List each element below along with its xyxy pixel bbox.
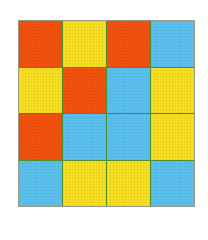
grid-cell-r3c2 [63,114,106,160]
grid-cell-r2c4 [151,68,194,114]
grid-cell-r2c1 [19,68,62,114]
grid-cell-r3c3 [107,114,150,160]
grid-cell-r4c1 [19,161,62,207]
grid-cell-r4c4 [151,161,194,207]
colored-square-grid [19,21,194,206]
grid-cell-r1c2 [63,21,106,67]
grid-cell-r3c4 [151,114,194,160]
grid-cell-r2c2 [63,68,106,114]
grid-cell-r3c1 [19,114,62,160]
grid-cell-r4c2 [63,161,106,207]
grid-cell-r1c4 [151,21,194,67]
grid-cell-r4c3 [107,161,150,207]
grid-cell-r1c3 [107,21,150,67]
grid-cell-r1c1 [19,21,62,67]
grid-cell-r2c3 [107,68,150,114]
